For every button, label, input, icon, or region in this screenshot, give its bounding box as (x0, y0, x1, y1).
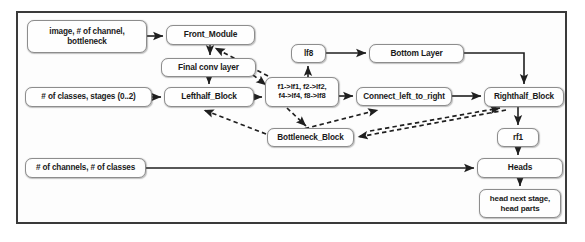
node-feature-map[interactable]: f1->lf1, f2->lf2, f4->lf4, f8->lf8 (265, 77, 339, 107)
node-head-parts-output-line1: head next stage, (490, 194, 550, 203)
node-lf8[interactable]: lf8 (291, 44, 326, 63)
node-channels-classes-input[interactable]: # of channels, # of classes (25, 158, 146, 178)
node-classes-stages-input-label: # of classes, stages (0..2) (41, 92, 135, 102)
node-lf8-label: lf8 (304, 49, 313, 59)
node-righthalf-block[interactable]: Righthalf_Block (484, 87, 564, 107)
node-front-module-label: Front_Module (184, 30, 238, 40)
node-lefthalf-block-label: Lefthalf_Block (181, 92, 237, 102)
node-heads[interactable]: Heads (477, 158, 563, 178)
node-righthalf-block-label: Righthalf_Block (494, 92, 554, 102)
node-image-input-line1: image, # of channel, (49, 27, 124, 37)
node-front-module[interactable]: Front_Module (166, 25, 255, 45)
node-heads-label: Heads (508, 163, 532, 173)
node-head-parts-output[interactable]: head next stage, head parts (479, 189, 561, 218)
node-classes-stages-input[interactable]: # of classes, stages (0..2) (25, 87, 152, 107)
node-feature-map-line2: f4->lf4, f8->lf8 (278, 92, 327, 101)
node-final-conv-layer-label: Final conv layer (178, 63, 239, 73)
node-image-input[interactable]: image, # of channel, bottleneck (27, 20, 147, 53)
node-bottom-layer-label: Bottom Layer (390, 49, 442, 59)
node-rf1-label: rf1 (513, 133, 523, 143)
node-bottom-layer[interactable]: Bottom Layer (369, 44, 464, 63)
node-image-input-line2: bottleneck (49, 37, 124, 47)
node-head-parts-output-line2: head parts (490, 204, 550, 213)
node-bottleneck-block[interactable]: Bottleneck_Block (267, 128, 354, 147)
node-connect-left-to-right[interactable]: Connect_left_to_right (356, 87, 452, 106)
node-rf1[interactable]: rf1 (497, 128, 539, 147)
node-bottleneck-block-label: Bottleneck_Block (277, 133, 343, 143)
node-connect-left-to-right-label: Connect_left_to_right (363, 92, 444, 102)
node-final-conv-layer[interactable]: Final conv layer (161, 58, 256, 77)
diagram-canvas: image, # of channel, bottleneck Front_Mo… (0, 0, 585, 242)
node-channels-classes-input-label: # of channels, # of classes (36, 163, 135, 173)
node-lefthalf-block[interactable]: Lefthalf_Block (164, 87, 254, 107)
